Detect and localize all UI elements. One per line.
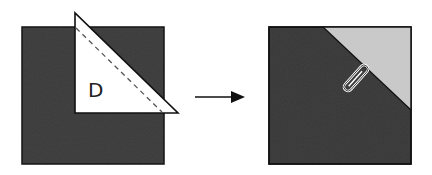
diagram-canvas: [0, 0, 432, 175]
arrow-right-icon: [195, 91, 245, 103]
after-step: [269, 27, 411, 164]
flap-label: D: [88, 80, 103, 100]
folding-diagram: D: [0, 0, 432, 175]
